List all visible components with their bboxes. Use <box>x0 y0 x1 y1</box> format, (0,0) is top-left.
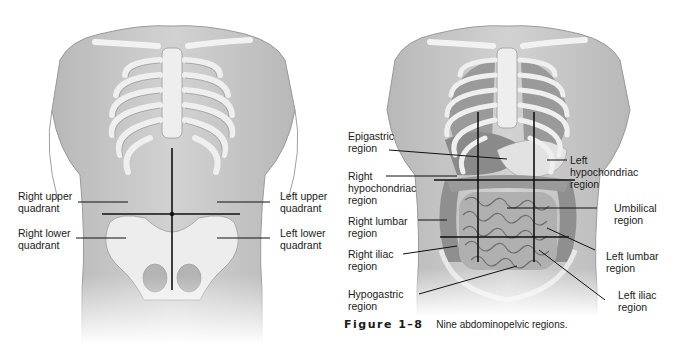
label-line: region <box>348 260 394 272</box>
label-line: Left lumbar <box>606 250 659 262</box>
label-line: region <box>348 194 416 206</box>
label-line: Umbilical <box>614 202 657 214</box>
label-line: quadrant <box>18 202 72 214</box>
label-right-lower-quadrant: Right lower quadrant <box>18 227 71 251</box>
label-line: Left iliac <box>618 289 657 301</box>
label-line: Left lower <box>280 227 326 239</box>
label-right-iliac-region: Right iliac region <box>348 248 394 272</box>
quadrants-figure: Right upper quadrant Right lower quadran… <box>0 0 337 344</box>
label-line: quadrant <box>280 239 326 251</box>
label-line: Right lower <box>18 227 71 239</box>
label-hypogastric-region: Hypogastric region <box>348 288 403 312</box>
label-right-lumbar-region: Right lumbar region <box>348 215 408 239</box>
label-line: region <box>570 178 638 190</box>
label-right-hypochondriac-region: Right hypochondriac region <box>348 170 416 206</box>
label-left-hypochondriac-region: Left hypochondriac region <box>570 154 638 190</box>
label-left-lumbar-region: Left lumbar region <box>606 250 659 274</box>
label-line: Hypogastric <box>348 288 403 300</box>
label-umbilical-region: Umbilical region <box>614 202 657 226</box>
figure-number: Figure 1–8 <box>344 318 424 331</box>
label-line: Right lumbar <box>348 215 408 227</box>
caption-text: Nine abdominopelvic regions. <box>436 319 567 330</box>
label-left-lower-quadrant: Left lower quadrant <box>280 227 326 251</box>
label-line: Epigastric <box>348 130 394 142</box>
label-line: quadrant <box>18 239 71 251</box>
label-line: region <box>348 227 408 239</box>
label-left-upper-quadrant: Left upper quadrant <box>280 190 327 214</box>
figure-caption: Figure 1–8 Nine abdominopelvic regions. <box>344 318 567 331</box>
label-line: Left upper <box>280 190 327 202</box>
label-line: hypochondriac <box>570 166 638 178</box>
label-line: region <box>614 214 657 226</box>
label-line: region <box>348 300 403 312</box>
label-line: quadrant <box>280 202 327 214</box>
label-line: hypochondriac <box>348 182 416 194</box>
label-line: region <box>606 262 659 274</box>
label-epigastric-region: Epigastric region <box>348 130 394 154</box>
label-line: Right iliac <box>348 248 394 260</box>
label-line: Left <box>570 154 638 166</box>
label-line: region <box>348 142 394 154</box>
label-line: Right upper <box>18 190 72 202</box>
label-line: region <box>618 301 657 313</box>
torso-illustration-quadrants <box>0 0 337 344</box>
label-left-iliac-region: Left iliac region <box>618 289 657 313</box>
nine-regions-figure: Epigastric region Right hypochondriac re… <box>337 0 674 344</box>
label-right-upper-quadrant: Right upper quadrant <box>18 190 72 214</box>
label-line: Right <box>348 170 416 182</box>
